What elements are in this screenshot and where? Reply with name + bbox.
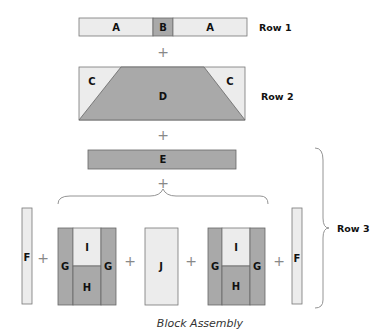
plus-sign: + bbox=[157, 44, 169, 60]
plus-sign: + bbox=[37, 250, 49, 266]
label-f-right: F bbox=[294, 253, 301, 264]
row-3-label: Row 3 bbox=[337, 223, 370, 234]
plus-sign: + bbox=[185, 253, 197, 269]
row-3-units: F + G I H G + J + G I H G + F bbox=[22, 208, 302, 305]
label-e: E bbox=[160, 154, 167, 165]
label-a-left: A bbox=[112, 22, 120, 33]
label-g: G bbox=[104, 261, 112, 272]
plus-sign: + bbox=[124, 253, 136, 269]
block-assembly-diagram: A B A Row 1 + C D C Row 2 + E + F + G I … bbox=[0, 0, 387, 334]
label-i: I bbox=[85, 242, 89, 253]
label-f-left: F bbox=[24, 252, 31, 263]
label-d: D bbox=[159, 91, 167, 102]
label-g: G bbox=[253, 261, 261, 272]
plus-sign: + bbox=[273, 253, 285, 269]
row-1: A B A Row 1 bbox=[79, 18, 292, 36]
label-h: H bbox=[232, 281, 240, 292]
label-c-left: C bbox=[88, 76, 95, 87]
label-h: H bbox=[83, 282, 91, 293]
row-2: C D C Row 2 bbox=[79, 67, 294, 120]
caption: Block Assembly bbox=[157, 317, 244, 330]
plus-sign: + bbox=[157, 127, 169, 143]
vertical-brace-icon bbox=[315, 148, 329, 308]
label-c-right: C bbox=[226, 76, 233, 87]
label-i: I bbox=[234, 242, 238, 253]
label-b: B bbox=[159, 22, 167, 33]
label-g: G bbox=[61, 261, 69, 272]
label-a-right: A bbox=[206, 22, 214, 33]
label-g: G bbox=[211, 261, 219, 272]
row-2-label: Row 2 bbox=[261, 91, 294, 102]
label-j: J bbox=[158, 261, 163, 272]
horizontal-brace-icon bbox=[58, 189, 268, 204]
row-1-label: Row 1 bbox=[259, 22, 292, 33]
